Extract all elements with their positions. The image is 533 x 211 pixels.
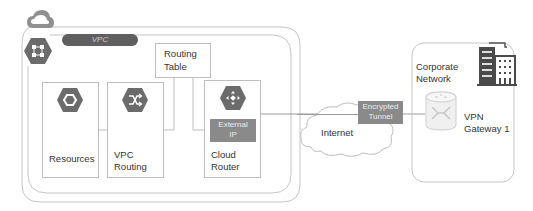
cloud-router-label-line2: Router xyxy=(211,161,240,173)
vpc-routing-label-line2: Routing xyxy=(114,161,147,173)
routing-table-label-line2: Table xyxy=(164,61,187,73)
vpc-label-pill: VPC xyxy=(62,34,138,46)
external-ip-badge: External IP xyxy=(210,119,256,142)
routes-shuffle-hexagon-icon xyxy=(121,87,149,113)
encrypted-tunnel-badge[interactable]: Encrypted Tunnel xyxy=(358,101,403,124)
internet-label: Internet xyxy=(321,127,353,139)
compute-engine-hexagon-icon xyxy=(56,87,84,113)
resources-node[interactable]: Resources xyxy=(42,82,99,178)
vpc-routing-label-line1: VPC xyxy=(114,149,134,161)
tunnel-line2: Tunnel xyxy=(358,112,403,122)
external-ip-line2: IP xyxy=(210,130,256,140)
external-ip-line1: External xyxy=(210,120,256,130)
corporate-network-label-line1: Corporate xyxy=(416,61,458,73)
vpn-gateway-label-line1: VPN xyxy=(464,111,484,123)
corporate-network-label-line2: Network xyxy=(416,73,451,85)
vpc-network-hexagon-icon xyxy=(23,36,53,66)
building-icon xyxy=(476,41,518,89)
resources-label: Resources xyxy=(49,153,94,165)
tunnel-connector-line xyxy=(297,114,359,115)
cloud-router-hexagon-icon xyxy=(219,85,247,111)
cloud-router-node[interactable]: External IP Cloud Router xyxy=(204,80,261,178)
vpn-gateway-icon[interactable] xyxy=(424,91,458,131)
routing-table-box[interactable]: Routing Table xyxy=(155,43,211,78)
vpc-routing-node[interactable]: VPC Routing xyxy=(107,82,164,178)
routing-table-label-line1: Routing xyxy=(164,48,197,60)
cloud-router-label-line1: Cloud xyxy=(211,149,236,161)
cloud-icon xyxy=(25,8,55,32)
tunnel-line1: Encrypted xyxy=(358,102,403,112)
vpn-gateway-label-line2: Gateway 1 xyxy=(464,123,509,135)
